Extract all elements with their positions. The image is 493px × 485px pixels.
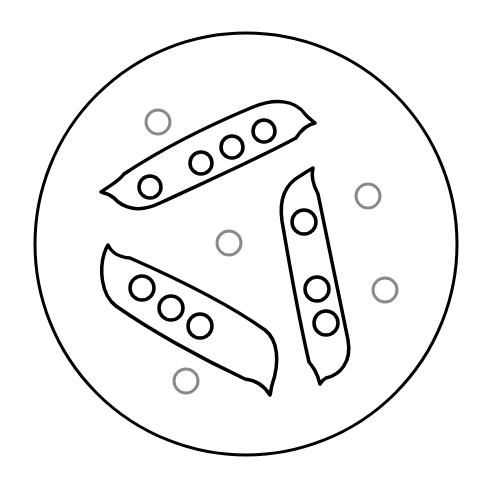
pea (159, 296, 183, 320)
pea (130, 276, 154, 300)
loose-pea (217, 231, 241, 255)
pea (221, 136, 243, 158)
pea (292, 210, 316, 234)
illustration-canvas: Pea pods in a petri dish (0, 0, 493, 485)
dish-outline (35, 33, 457, 455)
loose-pea (373, 278, 397, 302)
loose-pea (174, 369, 198, 393)
loose-pea (146, 110, 170, 134)
petri-dish-illustration (0, 0, 493, 485)
loose-pea (356, 184, 380, 208)
pea (188, 314, 212, 338)
pea (314, 311, 338, 335)
pea (253, 120, 275, 142)
pod-left (102, 245, 277, 395)
pea (305, 277, 329, 301)
pod-right (281, 168, 349, 384)
pea (139, 176, 161, 198)
pea (190, 152, 212, 174)
